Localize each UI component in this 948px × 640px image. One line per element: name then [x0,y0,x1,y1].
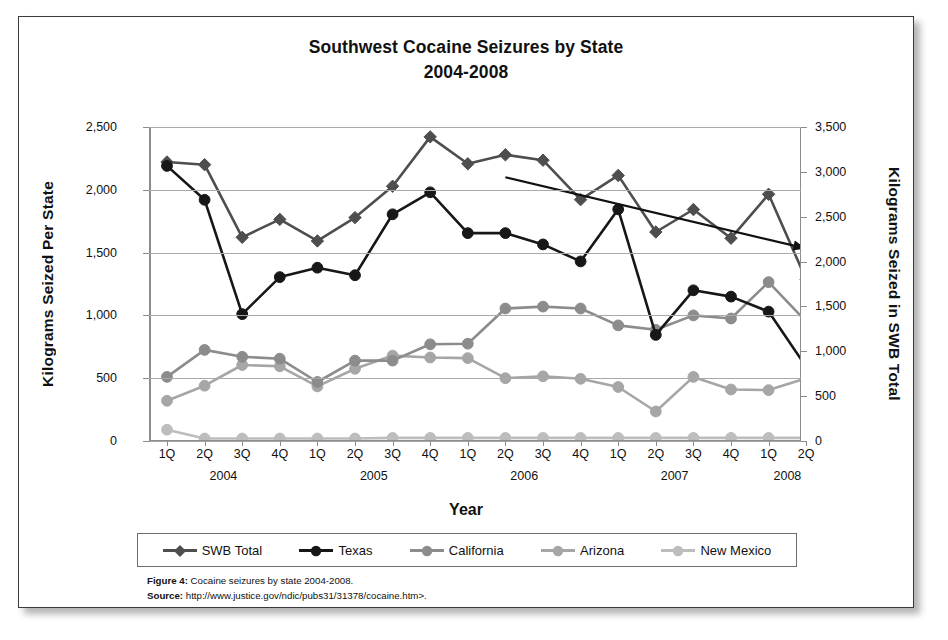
data-point-marker [274,213,286,225]
data-point-marker [500,303,511,314]
y-axis-right-tick-label: 2,500 [815,210,885,224]
x-axis-quarter-label: 3Q [685,447,702,461]
x-axis-ticks: 1Q2Q3Q4Q1Q2Q3Q4Q1Q2Q3Q4Q1Q2Q3Q4Q1Q2Q2004… [149,441,801,501]
y-axis-right-tick-label: 0 [815,434,885,448]
y-axis-left-tick-label: 1,000 [47,308,117,322]
y-axis-left-tick-mark [143,253,149,254]
x-axis-tick-mark [393,441,394,446]
data-point-marker [575,303,586,314]
data-point-marker [199,380,210,391]
x-axis-quarter-label: 4Q [271,447,288,461]
data-point-marker [199,194,210,205]
x-axis-quarter-label: 2Q [196,447,213,461]
y-axis-left-tick-label: 2,500 [47,120,117,134]
gridline [149,378,801,379]
chart-title: Southwest Cocaine Seizures by State 2004… [19,35,913,85]
x-axis-tick-mark [581,441,582,446]
x-axis-quarter-label: 4Q [422,447,439,461]
y-axis-left-tick-mark [143,190,149,191]
y-axis-right-line [800,127,802,441]
data-point-marker [613,320,624,331]
data-point-marker [162,161,173,172]
circle-marker-icon [552,545,564,557]
y-axis-left-tick-mark [143,378,149,379]
legend-marker [661,543,695,557]
data-point-marker [162,372,173,383]
x-axis-year-label: 2007 [661,469,689,483]
x-axis-quarter-label: 2Q [347,447,364,461]
x-axis-tick-mark [430,441,431,446]
legend-label: Texas [338,543,372,558]
y-axis-left-tick-label: 500 [47,371,117,385]
legend-label: New Mexico [700,543,771,558]
series-texas [162,161,801,373]
data-point-marker [726,384,737,395]
series-swb-total [161,131,801,286]
y-axis-left-tick-label: 2,000 [47,183,117,197]
x-axis-tick-mark [769,441,770,446]
x-axis-quarter-label: 4Q [572,447,589,461]
x-axis-tick-mark [468,441,469,446]
circle-marker-icon [421,545,433,557]
x-axis-quarter-label: 2Q [647,447,664,461]
data-point-marker [763,277,774,288]
data-point-marker [274,272,285,283]
y-axis-right-tick-label: 3,500 [815,120,885,134]
y-axis-right-title-text: Kilograms Seized in SWB Total [885,167,903,401]
legend-item-new-mexico[interactable]: New Mexico [661,543,771,558]
x-axis-quarter-label: 3Q [384,447,401,461]
chart-title-line-2: 2004-2008 [19,60,913,85]
data-point-marker [650,406,661,417]
figure-page: Southwest Cocaine Seizures by State 2004… [0,0,948,640]
y-axis-left-tick-mark [143,315,149,316]
x-axis-tick-mark [167,441,168,446]
data-point-marker [237,309,248,320]
diamond-marker-icon [174,545,186,557]
data-point-marker [387,209,398,220]
caption-line: Figure 4: Cocaine seizures by state 2004… [147,573,747,588]
x-axis-tick-mark [280,441,281,446]
y-axis-left-tick-mark [143,127,149,128]
data-point-marker [425,339,436,350]
data-point-marker [575,256,586,267]
legend-item-arizona[interactable]: Arizona [541,543,624,558]
data-point-marker [312,262,323,273]
x-axis-tick-mark [543,441,544,446]
y-axis-right-tick-label: 1,000 [815,344,885,358]
data-point-marker [613,382,624,393]
series-plot [149,127,801,441]
data-point-marker [650,330,661,341]
x-axis-tick-mark [693,441,694,446]
x-axis-tick-mark [355,441,356,446]
x-axis-tick-mark [317,441,318,446]
trendline-shaft [505,177,799,247]
data-point-marker [499,149,511,161]
data-point-marker [387,355,398,366]
data-point-marker [538,239,549,250]
chart-title-line-1: Southwest Cocaine Seizures by State [19,35,913,60]
x-axis-quarter-label: 1Q [159,447,176,461]
series-line [167,356,801,412]
x-axis-quarter-label: 3Q [234,447,251,461]
legend-item-swb-total[interactable]: SWB Total [163,543,262,558]
x-axis-quarter-label: 2Q [497,447,514,461]
legend-label: Arizona [580,543,624,558]
data-point-marker [425,352,436,363]
y-axis-right-tick-mark [801,127,807,128]
x-axis-quarter-label: 1Q [309,447,326,461]
data-point-marker [162,395,173,406]
y-axis-left-title: Kilograms Seized Per State [37,127,59,441]
x-axis-title: Year [19,501,913,519]
y-axis-right-tick-mark [801,396,807,397]
figure-frame: Southwest Cocaine Seizures by State 2004… [18,16,914,608]
x-axis-quarter-label: 3Q [535,447,552,461]
legend-item-texas[interactable]: Texas [299,543,372,558]
series-line [167,430,801,439]
data-point-marker [274,353,285,364]
legend-item-california[interactable]: California [410,543,504,558]
x-axis-year-label: 2004 [209,469,237,483]
data-point-marker [462,338,473,349]
legend-marker [163,543,197,557]
x-axis-quarter-label: 2Q [798,447,815,461]
series-line [167,166,801,367]
